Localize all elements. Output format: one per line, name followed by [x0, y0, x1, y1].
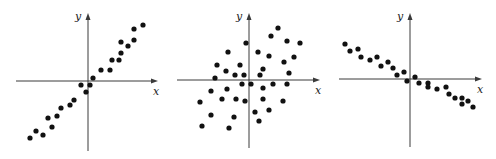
- data-point: [243, 40, 248, 45]
- data-point: [260, 66, 265, 71]
- data-point: [270, 81, 275, 86]
- data-points: [342, 41, 475, 109]
- data-point: [256, 118, 261, 123]
- data-point: [291, 54, 296, 59]
- data-point: [241, 72, 246, 77]
- y-axis-arrow: [86, 13, 91, 20]
- data-point: [125, 43, 130, 48]
- scatter-plots-figure: x y x y x y: [0, 0, 496, 159]
- data-point: [116, 57, 121, 62]
- data-point: [459, 95, 464, 100]
- data-point: [131, 37, 136, 42]
- x-axis-label: x: [477, 83, 484, 96]
- x-axis-arrow: [151, 79, 158, 84]
- data-points: [197, 25, 302, 130]
- data-point: [416, 80, 421, 85]
- data-point: [284, 38, 289, 43]
- data-point: [347, 48, 352, 53]
- y-axis-label: y: [396, 10, 404, 23]
- data-point: [223, 68, 228, 73]
- x-axis-arrow: [475, 77, 482, 82]
- data-point: [212, 75, 217, 80]
- data-point: [58, 105, 63, 110]
- data-point: [49, 124, 54, 129]
- scatter-panel-1: x y: [16, 10, 160, 151]
- data-point: [281, 59, 286, 64]
- data-point: [266, 107, 271, 112]
- data-point: [83, 89, 88, 94]
- data-point: [470, 104, 475, 109]
- data-point: [401, 69, 406, 74]
- data-point: [459, 101, 464, 106]
- data-point: [266, 53, 271, 58]
- data-point: [434, 86, 439, 91]
- y-axis-arrow: [408, 13, 413, 20]
- data-point: [239, 81, 244, 86]
- data-point: [90, 75, 95, 80]
- data-point: [45, 115, 50, 120]
- data-point: [342, 41, 347, 46]
- data-point: [268, 33, 273, 38]
- data-point: [40, 132, 45, 137]
- data-point: [33, 128, 38, 133]
- data-point: [452, 95, 457, 100]
- data-point: [131, 26, 136, 31]
- data-point: [248, 81, 253, 86]
- data-point: [412, 74, 417, 79]
- data-point: [242, 98, 247, 103]
- data-point: [355, 46, 360, 51]
- data-point: [385, 59, 390, 64]
- data-point: [378, 63, 383, 68]
- data-point: [226, 125, 231, 130]
- data-point: [425, 84, 430, 89]
- data-point: [394, 72, 399, 77]
- data-point: [257, 72, 262, 77]
- data-point: [231, 114, 236, 119]
- data-point: [237, 62, 242, 67]
- data-point: [390, 65, 395, 70]
- data-point: [98, 67, 103, 72]
- y-axis-label: y: [74, 10, 82, 23]
- data-point: [67, 102, 72, 107]
- data-point: [140, 22, 145, 27]
- data-point: [358, 54, 363, 59]
- y-axis-arrow: [247, 13, 252, 20]
- data-point: [286, 70, 291, 75]
- data-point: [443, 84, 448, 89]
- data-point: [404, 78, 409, 83]
- data-point: [255, 49, 260, 54]
- data-point: [280, 98, 285, 103]
- data-point: [27, 135, 32, 140]
- data-point: [107, 67, 112, 72]
- scatter-panel-3: x y: [339, 10, 484, 147]
- data-point: [54, 113, 59, 118]
- data-point: [367, 57, 372, 62]
- data-point: [252, 109, 257, 114]
- data-point: [260, 96, 265, 101]
- data-point: [71, 97, 76, 102]
- x-axis-label: x: [315, 84, 322, 97]
- data-point: [78, 82, 83, 87]
- data-point: [225, 49, 230, 54]
- data-point: [118, 39, 123, 44]
- data-point: [275, 25, 280, 30]
- data-point: [446, 91, 451, 96]
- data-point: [109, 57, 114, 62]
- x-axis-label: x: [153, 85, 160, 98]
- data-point: [208, 112, 213, 117]
- data-point: [118, 50, 123, 55]
- data-point: [465, 98, 470, 103]
- data-point: [208, 88, 213, 93]
- data-point: [219, 96, 224, 101]
- data-point: [214, 62, 219, 67]
- x-axis-arrow: [313, 78, 320, 83]
- data-point: [224, 86, 229, 91]
- data-point: [297, 40, 302, 45]
- data-point: [233, 96, 238, 101]
- data-point: [284, 81, 289, 86]
- data-point: [197, 99, 202, 104]
- data-point: [87, 82, 92, 87]
- data-point: [374, 54, 379, 59]
- data-point: [260, 85, 265, 90]
- data-point: [232, 72, 237, 77]
